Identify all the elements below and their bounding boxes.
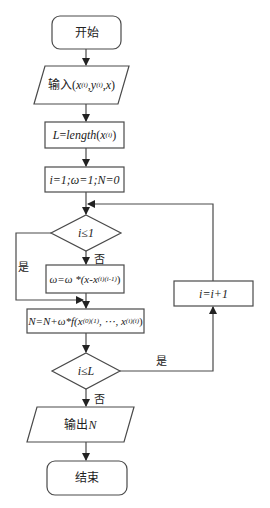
increment-label: i=i+1 <box>174 281 253 306</box>
decision1-condition: i≤1 <box>78 227 94 239</box>
increment-text: i=i+1 <box>199 288 228 300</box>
end-text: 结束 <box>75 472 99 484</box>
length-label: L=length(x(i)) <box>45 122 124 148</box>
decision1-yes-label: 是 <box>18 258 29 274</box>
omega-sub: (i)(i-1) <box>98 276 117 283</box>
init-label: i=1;ω=1;N=0 <box>45 167 124 192</box>
sum-close: ) <box>139 316 143 327</box>
decision2-yes-label: 是 <box>156 352 167 368</box>
output-label: 输出N <box>27 407 134 442</box>
sum-label: N=N+ω*f(x(0)(1), ⋯, x(i)(i)) <box>27 309 144 333</box>
decision1-label: i≤1 <box>51 215 121 251</box>
output-prefix: 输出 <box>64 419 88 431</box>
decision2-no-label: 否 <box>94 390 105 406</box>
decision2-label: i≤L <box>52 353 120 389</box>
init-text: i=1;ω=1;N=0 <box>49 174 119 186</box>
input-close: ) <box>111 79 115 91</box>
decision2-condition: i≤L <box>78 365 95 377</box>
omega-close: ) <box>117 274 121 285</box>
input-prefix: 输入 <box>48 79 72 91</box>
length-fn: length <box>66 129 96 141</box>
omega-label: ω=ω *(x-x(i)(i-1)) <box>46 265 124 293</box>
sum-sub1: (0)(1) <box>83 318 99 325</box>
start-label: 开始 <box>52 16 121 49</box>
length-lhs: L <box>53 129 60 141</box>
input-label: 输入(x(i), y(i), x) <box>34 66 129 104</box>
length-arg-sub: (i) <box>106 132 113 139</box>
sum-mid: , ⋯, x <box>99 316 126 327</box>
length-close: ) <box>112 129 116 141</box>
sum-sub2: (i)(i) <box>126 318 139 325</box>
input-y-sub: (i) <box>96 82 103 89</box>
input-x-sub: (i) <box>81 82 88 89</box>
start-text: 开始 <box>75 27 99 39</box>
decision1-no-label: 否 <box>94 250 105 266</box>
end-label: 结束 <box>47 461 127 495</box>
sum-main: N=N+ω*f(x <box>28 316 82 327</box>
length-eq: = <box>59 129 66 141</box>
omega-main: ω=ω *(x-x <box>49 274 97 285</box>
output-var: N <box>88 419 96 431</box>
